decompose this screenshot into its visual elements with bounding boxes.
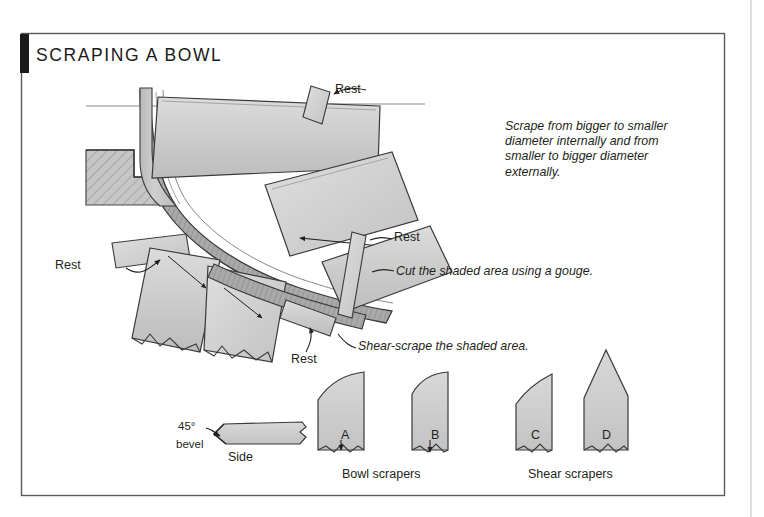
scraper-label-c: C [531,428,540,442]
callout-rest-bottom: Rest [291,352,317,366]
label-bevel: bevel [176,438,204,450]
callout-rest-left: Rest [55,258,81,272]
scraper-label-a: A [341,428,349,442]
illustration-canvas [0,0,764,517]
title-tab-marker [20,34,29,73]
callout-rest-mid: Rest [394,230,420,244]
note-direction-l1: Scrape from bigger to smaller [505,119,668,133]
scraper-label-d: D [602,428,611,442]
scraper-label-b: B [431,428,439,442]
figure-root: SCRAPING A BOWL Rest Rest Rest Rest Scra… [0,0,764,517]
group-label-shear-scrapers: Shear scrapers [528,467,613,481]
label-bevel-angle: 45° [178,420,195,432]
note-direction: Scrape from bigger to smaller diameter i… [505,119,695,180]
note-direction-l3: smaller to bigger diameter [505,149,648,163]
label-side-view: Side [228,450,253,464]
note-direction-l4: externally. [505,165,561,179]
note-direction-l2: diameter internally and from [505,134,659,148]
page-title: SCRAPING A BOWL [36,45,222,66]
callout-rest-top: Rest [335,82,361,96]
group-label-bowl-scrapers: Bowl scrapers [342,467,421,481]
note-shear: Shear-scrape the shaded area. [358,339,529,354]
note-gouge: Cut the shaded area using a gouge. [396,264,593,279]
side-view-scraper [214,422,306,444]
